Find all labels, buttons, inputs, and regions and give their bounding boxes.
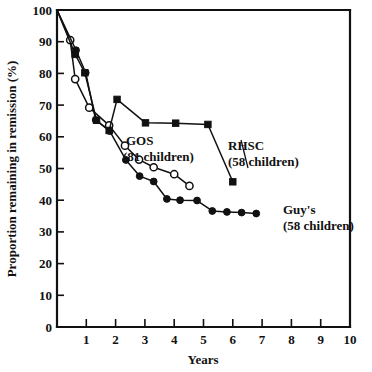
- y-tick-label-90: 90: [39, 34, 52, 49]
- data-point-square: [230, 179, 236, 185]
- rhsc-annotation-sublabel: (58 children): [228, 154, 299, 169]
- data-series-layer: [57, 10, 260, 217]
- y-tick-label-50: 50: [39, 161, 52, 176]
- y-tick-label-70: 70: [39, 98, 52, 113]
- x-tick-label-10: 10: [344, 332, 357, 347]
- x-axis-ticks: [86, 319, 320, 327]
- chart-page: 0 10 20 30 40 50 60 70 80 90 100 1 2: [0, 0, 372, 372]
- data-point-filled-circle: [150, 178, 157, 185]
- data-point-open-circle: [186, 182, 193, 189]
- guys-annotation: Guy's (58 children): [283, 202, 354, 233]
- gos-annotation-label: GOS: [126, 133, 153, 148]
- data-point-filled-circle: [194, 197, 201, 204]
- data-point-square: [205, 121, 211, 127]
- data-point-filled-circle: [224, 209, 231, 216]
- data-point-filled-circle: [92, 117, 99, 124]
- y-tick-label-0: 0: [46, 320, 53, 335]
- plot-axes: [57, 10, 350, 327]
- y-tick-label-20: 20: [39, 256, 52, 271]
- y-tick-label-80: 80: [39, 66, 52, 81]
- x-tick-label-4: 4: [171, 332, 178, 347]
- y-tick-label-10: 10: [39, 288, 52, 303]
- data-point-square: [114, 96, 120, 102]
- data-point-filled-circle: [82, 69, 89, 76]
- x-axis-title: Years: [187, 352, 218, 367]
- x-tick-label-6: 6: [230, 332, 237, 347]
- data-point-filled-circle: [253, 210, 260, 217]
- data-point-filled-circle: [238, 209, 245, 216]
- guys-annotation-sublabel: (58 children): [283, 218, 354, 233]
- y-axis-tick-labels: 0 10 20 30 40 50 60 70 80 90 100: [33, 3, 53, 335]
- guys-annotation-label: Guy's: [283, 202, 316, 217]
- survival-curve-chart: 0 10 20 30 40 50 60 70 80 90 100 1 2: [0, 0, 372, 372]
- x-tick-label-1: 1: [83, 332, 90, 347]
- gos-annotation: GOS (81 children): [123, 133, 194, 164]
- x-tick-label-3: 3: [142, 332, 149, 347]
- data-point-filled-circle: [136, 173, 143, 180]
- y-tick-label-30: 30: [39, 224, 52, 239]
- data-point-filled-circle: [177, 197, 184, 204]
- y-tick-label-60: 60: [39, 129, 52, 144]
- series-guy-s: [57, 10, 260, 217]
- data-point-square: [172, 120, 178, 126]
- x-tick-label-5: 5: [200, 332, 207, 347]
- x-tick-label-9: 9: [317, 332, 324, 347]
- data-point-filled-circle: [209, 208, 216, 215]
- y-axis-title: Proportion remaining in remission (%): [4, 61, 19, 278]
- data-point-square: [142, 120, 148, 126]
- data-point-open-circle: [150, 164, 157, 171]
- data-point-open-circle: [86, 104, 93, 111]
- y-tick-label-100: 100: [33, 3, 53, 18]
- x-axis-tick-labels: 1 2 3 4 5 6 7 8 9 10: [83, 332, 356, 347]
- x-tick-label-2: 2: [112, 332, 119, 347]
- x-tick-label-7: 7: [259, 332, 266, 347]
- data-point-filled-circle: [73, 47, 80, 54]
- gos-annotation-sublabel: (81 children): [123, 149, 194, 164]
- y-tick-label-40: 40: [39, 193, 52, 208]
- x-tick-label-8: 8: [288, 332, 295, 347]
- data-point-filled-circle: [106, 128, 113, 135]
- data-point-filled-circle: [163, 196, 170, 203]
- rhsc-annotation-label: RHSC: [228, 138, 264, 153]
- data-point-open-circle: [171, 171, 178, 178]
- data-point-open-circle: [72, 76, 79, 83]
- rhsc-annotation: RHSC (58 children): [228, 138, 299, 169]
